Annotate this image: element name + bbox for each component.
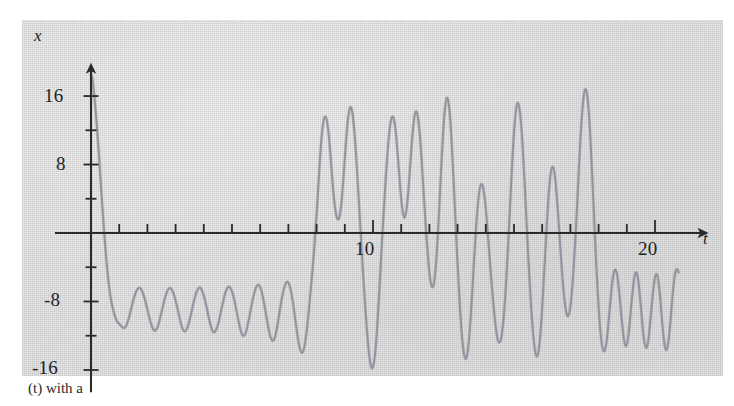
caption-fragment: (t) with a	[0, 380, 83, 397]
data-curve-group	[91, 74, 679, 369]
y-tick-label-16: 16	[44, 85, 63, 107]
x-tick-label-20: 20	[638, 238, 657, 260]
data-curve-halo	[91, 74, 679, 369]
x-axis-title: t	[703, 229, 708, 249]
caption-strip: (t) with a	[0, 380, 734, 406]
y-axis-title: x	[34, 26, 42, 46]
figure-container: x t 16 8 -8 -16 10 20 (t) with a	[0, 0, 734, 406]
y-tick-label-minus-8: -8	[44, 289, 60, 311]
x-tick-label-10: 10	[355, 238, 374, 260]
y-tick-label-minus-16: -16	[32, 357, 58, 379]
chart-canvas	[0, 0, 734, 406]
y-tick-label-8: 8	[56, 153, 66, 175]
